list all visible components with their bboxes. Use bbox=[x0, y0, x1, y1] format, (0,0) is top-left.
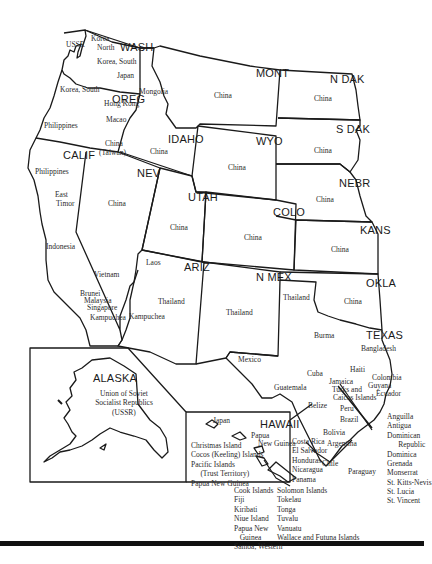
country-label-indonesia: Indonesia bbox=[46, 243, 75, 252]
state-label-colo: COLO bbox=[273, 207, 305, 218]
country-label-chile: Chile bbox=[322, 460, 338, 469]
country-list-pacific-1: Cook Islands Fiji Kiribati Niue Island P… bbox=[234, 486, 282, 552]
country-label-kampuchea-az: Kampuchea bbox=[129, 313, 165, 322]
country-label-korea-north-line2: North bbox=[97, 44, 115, 53]
country-label-china-taiwan-2: (Taiwan) bbox=[99, 149, 126, 158]
state-colo bbox=[202, 192, 296, 270]
country-label-mexico: Mexico bbox=[238, 356, 261, 365]
state-label-alaska: ALASKA bbox=[93, 373, 137, 384]
state-mont bbox=[154, 46, 280, 126]
country-list-caribbean: Anguilla Antigua Dominican Republic Domi… bbox=[387, 412, 432, 506]
country-label-thailand-tx: Thailand bbox=[283, 294, 310, 303]
country-label-belize: Belize bbox=[308, 402, 327, 411]
country-label-burma: Burma bbox=[314, 332, 334, 341]
state-utah bbox=[142, 168, 206, 262]
state-label-ndak: N DAK bbox=[330, 74, 365, 85]
country-label-ussr-alaska-2: Socialist Republics bbox=[82, 399, 166, 408]
country-label-macao: Macao bbox=[106, 116, 126, 125]
state-label-idaho: IDAHO bbox=[168, 134, 204, 145]
state-label-sdak: S DAK bbox=[336, 124, 370, 135]
state-label-mont: MONT bbox=[256, 68, 289, 79]
country-label-haiti: Haiti bbox=[350, 366, 365, 375]
country-label-kampuchea-ca: Kampuchea bbox=[90, 314, 126, 323]
page-rule bbox=[0, 541, 424, 546]
country-label-east-timor-2: Timor bbox=[56, 200, 74, 209]
country-label-japan-hi: Japan bbox=[213, 417, 230, 426]
country-label-korea-south-or: Korea, South bbox=[60, 86, 100, 95]
country-label-vietnam: Vietnam bbox=[94, 271, 119, 280]
state-oreg bbox=[36, 70, 140, 152]
state-label-wyo: WYO bbox=[256, 136, 283, 147]
country-label-china-ndak: China bbox=[314, 95, 332, 104]
country-label-china-mont: China bbox=[214, 92, 232, 101]
state-label-calif: CALIF bbox=[63, 150, 95, 161]
country-label-china-okla: China bbox=[344, 298, 362, 307]
country-label-guatemala: Guatemala bbox=[274, 384, 306, 393]
country-label-mongolia: Mongolia bbox=[139, 88, 168, 97]
country-label-singapore: Singapore bbox=[87, 304, 117, 313]
state-label-wash: WASH bbox=[120, 42, 153, 53]
country-label-turks-2: Caicos Islands bbox=[333, 394, 377, 403]
country-label-thailand-nm: Thailand bbox=[226, 309, 253, 318]
country-label-argentina: Argentina bbox=[327, 440, 357, 449]
state-label-nev: NEV bbox=[137, 168, 160, 179]
country-label-china-idaho: China bbox=[150, 148, 168, 157]
state-label-utah: UTAH bbox=[188, 192, 218, 203]
country-label-china-wyo: China bbox=[228, 164, 246, 173]
country-label-philippines-or: Philippines bbox=[44, 122, 78, 131]
country-label-ecuador: Ecuador bbox=[376, 390, 401, 399]
country-label-china-colo: China bbox=[244, 234, 262, 243]
country-label-china-sdak: China bbox=[314, 147, 332, 156]
state-label-kans: KANS bbox=[360, 225, 391, 236]
state-label-texas: TEXAS bbox=[366, 330, 403, 341]
country-label-brazil: Brazil bbox=[340, 416, 358, 425]
country-label-bangladesh: Bangladesh bbox=[361, 345, 396, 354]
country-label-ussr: USSR bbox=[66, 41, 85, 50]
country-label-china-nev: China bbox=[108, 200, 126, 209]
country-label-png-hi-2: New Guinea bbox=[258, 440, 296, 449]
country-list-hawaii: Christmas Island Cocos (Keeling) Islands… bbox=[191, 441, 263, 488]
country-label-korea-south-wa: Korea, South bbox=[97, 58, 137, 67]
country-label-china-kans: China bbox=[331, 246, 349, 255]
state-label-nmex: N MEX bbox=[256, 272, 292, 283]
state-label-nebr: NEBR bbox=[339, 178, 370, 189]
state-label-okla: OKLA bbox=[366, 278, 396, 289]
country-label-thailand-az: Thailand bbox=[158, 298, 185, 307]
state-label-ariz: ARIZ bbox=[184, 262, 210, 273]
country-label-ussr-alaska-3: (USSR) bbox=[94, 409, 154, 418]
country-label-cuba: Cuba bbox=[307, 370, 323, 379]
country-label-hong-kong: Hong Kong bbox=[104, 100, 139, 109]
state-label-hawaii: HAWAII bbox=[260, 419, 300, 430]
country-label-china-utah: China bbox=[170, 224, 188, 233]
country-label-japan-wa: Japan bbox=[117, 72, 134, 81]
country-label-laos: Laos bbox=[146, 259, 161, 268]
country-label-philippines-ca: Philippines bbox=[35, 168, 69, 177]
country-label-china-nebr: China bbox=[316, 196, 334, 205]
country-label-peru: Peru bbox=[340, 405, 354, 414]
country-label-paraguay: Paraguay bbox=[348, 468, 376, 477]
country-list-pacific-2: Solomon Islands Tokelau Tonga Tuvalu Van… bbox=[277, 486, 360, 542]
